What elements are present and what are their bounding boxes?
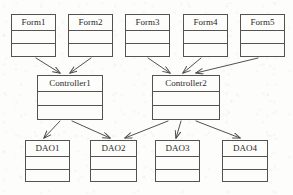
class-name-form1: Form1 bbox=[12, 15, 55, 31]
class-name-dao4: DAO4 bbox=[223, 141, 267, 157]
e-form3-controller2[interactable] bbox=[148, 58, 170, 73]
class-operations-controller2 bbox=[153, 106, 219, 119]
class-box-controller2[interactable]: Controller2 bbox=[152, 75, 220, 120]
class-name-form2: Form2 bbox=[69, 15, 112, 31]
e-controller2-dao3[interactable] bbox=[176, 121, 181, 138]
class-box-controller1[interactable]: Controller1 bbox=[37, 75, 103, 120]
class-attributes-form5 bbox=[241, 31, 284, 44]
class-box-dao2[interactable]: DAO2 bbox=[90, 140, 137, 182]
class-operations-dao3 bbox=[156, 170, 199, 182]
class-name-dao3: DAO3 bbox=[156, 141, 199, 157]
class-attributes-form2 bbox=[69, 31, 112, 44]
class-attributes-controller2 bbox=[153, 92, 219, 106]
class-operations-controller1 bbox=[38, 106, 102, 119]
class-attributes-form4 bbox=[184, 31, 227, 44]
class-name-form3: Form3 bbox=[126, 15, 169, 31]
class-box-form2[interactable]: Form2 bbox=[68, 14, 113, 57]
class-operations-dao4 bbox=[223, 170, 267, 182]
class-attributes-dao4 bbox=[223, 157, 267, 170]
class-name-dao1: DAO1 bbox=[26, 141, 69, 157]
class-operations-form4 bbox=[184, 44, 227, 56]
class-attributes-form1 bbox=[12, 31, 55, 44]
e-controller1-dao2[interactable] bbox=[72, 121, 110, 138]
class-operations-form2 bbox=[69, 44, 112, 56]
class-name-dao2: DAO2 bbox=[91, 141, 136, 157]
class-box-dao4[interactable]: DAO4 bbox=[222, 140, 268, 182]
class-operations-form1 bbox=[12, 44, 55, 56]
class-attributes-dao2 bbox=[91, 157, 136, 170]
class-box-form1[interactable]: Form1 bbox=[11, 14, 56, 57]
class-operations-dao2 bbox=[91, 170, 136, 182]
e-form4-controller2[interactable] bbox=[183, 58, 201, 73]
class-name-controller1: Controller1 bbox=[38, 76, 102, 92]
e-form5-controller2[interactable] bbox=[196, 58, 258, 73]
class-diagram-canvas: Form1Form2Form3Form4Form5Controller1Cont… bbox=[0, 0, 293, 195]
e-controller2-dao2[interactable] bbox=[125, 121, 168, 138]
class-attributes-dao1 bbox=[26, 157, 69, 170]
class-attributes-dao3 bbox=[156, 157, 199, 170]
e-controller1-dao1[interactable] bbox=[44, 121, 60, 138]
e-form2-controller1[interactable] bbox=[70, 58, 91, 73]
class-box-dao3[interactable]: DAO3 bbox=[155, 140, 200, 182]
e-controller2-dao4[interactable] bbox=[196, 121, 240, 138]
class-box-form3[interactable]: Form3 bbox=[125, 14, 170, 57]
class-box-form5[interactable]: Form5 bbox=[240, 14, 285, 57]
class-name-controller2: Controller2 bbox=[153, 76, 219, 92]
class-attributes-controller1 bbox=[38, 92, 102, 106]
class-operations-form5 bbox=[241, 44, 284, 56]
class-operations-form3 bbox=[126, 44, 169, 56]
class-box-form4[interactable]: Form4 bbox=[183, 14, 228, 57]
class-operations-dao1 bbox=[26, 170, 69, 182]
class-name-form4: Form4 bbox=[184, 15, 227, 31]
class-attributes-form3 bbox=[126, 31, 169, 44]
e-form1-controller1[interactable] bbox=[36, 58, 60, 73]
class-box-dao1[interactable]: DAO1 bbox=[25, 140, 70, 182]
class-name-form5: Form5 bbox=[241, 15, 284, 31]
